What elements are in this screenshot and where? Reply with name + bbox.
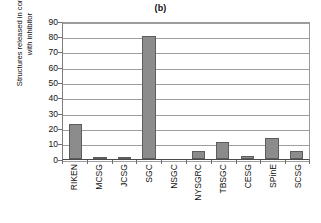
x-label-slot: SGC — [136, 164, 161, 222]
y-axis-tick-label: 40 — [36, 94, 58, 103]
x-axis-tick-label: NSGC — [169, 164, 178, 189]
y-axis-tick-mark — [58, 83, 62, 84]
y-axis-tick-mark — [58, 114, 62, 115]
y-axis-tick-mark — [58, 98, 62, 99]
y-axis-tick-label: 90 — [36, 18, 58, 27]
x-label-slot: JCSG — [112, 164, 137, 222]
y-axis-title-text: Structures released in complex with inhi… — [15, 0, 36, 86]
x-label-slot: CESG — [236, 164, 261, 222]
x-axis-tick-label: MCSG — [95, 164, 104, 190]
chart-title: (b) — [0, 3, 321, 13]
x-axis-tick-label: TBSGC — [219, 164, 228, 194]
x-label-slot: SCSG — [285, 164, 310, 222]
y-axis-tick-mark — [58, 144, 62, 145]
y-axis-tick-label: 0 — [36, 156, 58, 165]
x-axis-tick-label: SGC — [144, 164, 153, 183]
x-axis-tick-label: CESG — [244, 164, 253, 188]
bar-slot — [235, 23, 260, 159]
bar-chart-figure: (b) Structures released in complex with … — [0, 0, 321, 223]
bar-slot — [112, 23, 137, 159]
bar-slot — [161, 23, 186, 159]
y-axis-tick-label: 30 — [36, 110, 58, 119]
y-axis-tick-mark — [58, 160, 62, 161]
bar-slot — [186, 23, 211, 159]
x-axis-tick-label: SPinE — [268, 164, 277, 188]
bar-sgc — [142, 36, 155, 159]
bar-jcsg — [118, 157, 131, 159]
y-axis-tick-mark — [58, 37, 62, 38]
y-axis-tick-mark — [58, 52, 62, 53]
bar-slot — [260, 23, 285, 159]
x-axis-tick-label: SCSG — [293, 164, 302, 188]
y-axis-tick-labels: 0102030405060708090 — [34, 22, 58, 160]
y-axis-tick-label: 20 — [36, 125, 58, 134]
bar-tbsgc — [216, 142, 229, 159]
y-axis-tick-label: 10 — [36, 140, 58, 149]
y-axis-tick-label: 70 — [36, 48, 58, 57]
y-axis-tick-mark — [58, 22, 62, 23]
plot-area — [62, 22, 310, 160]
bar-slot — [284, 23, 309, 159]
x-label-slot: NYSGRC — [186, 164, 211, 222]
y-axis-tick-label: 60 — [36, 64, 58, 73]
bar-nysgrc — [192, 151, 205, 159]
x-axis-tick-labels: RIKENMCSGJCSGSGCNSGCNYSGRCTBSGCCESGSPinE… — [62, 164, 310, 222]
y-axis-tick-mark — [58, 68, 62, 69]
y-axis-tick-mark — [58, 129, 62, 130]
x-label-slot: SPinE — [260, 164, 285, 222]
x-axis-tick-label: RIKEN — [70, 164, 79, 190]
bar-slot — [137, 23, 162, 159]
y-axis-tick-label: 50 — [36, 79, 58, 88]
bar-spine — [265, 138, 278, 159]
bar-riken — [69, 124, 82, 159]
y-axis-tick-label: 80 — [36, 33, 58, 42]
x-label-slot: MCSG — [87, 164, 112, 222]
x-label-slot: RIKEN — [62, 164, 87, 222]
bar-series — [63, 23, 309, 159]
bar-slot — [63, 23, 88, 159]
bar-cesg — [241, 156, 254, 159]
x-label-slot: NSGC — [161, 164, 186, 222]
bar-slot — [88, 23, 113, 159]
bar-scsg — [290, 151, 303, 159]
x-axis-tick-label: NYSGRC — [194, 164, 203, 201]
x-axis-tick-label: JCSG — [120, 164, 129, 187]
bar-mcsg — [93, 157, 106, 159]
x-label-slot: TBSGC — [211, 164, 236, 222]
bar-slot — [211, 23, 236, 159]
